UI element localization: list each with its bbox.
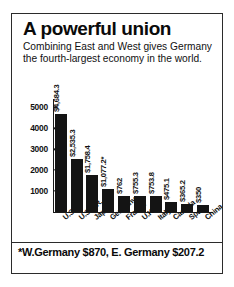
bar-group: $1,077.2*Germany [102, 99, 114, 212]
plot-area: 10002000300040005000$4,684.3U.S.$2,535.3… [53, 99, 211, 212]
y-axis-tick-label: 3000 [30, 144, 53, 154]
bar [150, 196, 162, 212]
bar-value-label: $762 [115, 178, 124, 194]
bar-group: $762France [118, 99, 130, 212]
bar-group: $365.2Spain [181, 99, 193, 212]
bar [55, 114, 67, 212]
bar-value-label: $350 [194, 187, 203, 203]
chart-subtitle: Combining East and West gives Germany th… [23, 41, 213, 64]
footnote-divider [12, 242, 222, 243]
bar-value-label: $1,077.2* [99, 157, 108, 187]
bar-group: $4,684.3U.S. [55, 99, 67, 212]
bar-value-label: $4,684.3 [52, 84, 61, 112]
chart-figure: A powerful union Combining East and West… [11, 13, 223, 274]
y-axis-tick-label: 2000 [30, 165, 53, 175]
footnote: *W.Germany $870, E. Germany $207.2 [18, 246, 218, 258]
bar-value-label: $753.8 [147, 173, 156, 195]
bar-group: $1,758.4Japan [86, 99, 98, 212]
bar-value-label: $2,535.3 [68, 129, 77, 157]
bar-value-label: $755.3 [131, 172, 140, 194]
bar [134, 196, 146, 212]
y-axis-tick-label: 4000 [30, 123, 53, 133]
bar-group: $2,535.3U.S.S.R. [71, 99, 83, 212]
bar-group: $753.8Italy [150, 99, 162, 212]
bar [71, 159, 83, 212]
bar-value-label: $1,758.4 [83, 146, 92, 174]
bar [86, 175, 98, 212]
bar-group: $350China [197, 99, 209, 212]
bar-value-label: $365.2 [178, 181, 187, 203]
y-axis-tick-label: 5000 [30, 102, 53, 112]
page-title: A powerful union [23, 19, 218, 39]
bar-value-label: $475.1 [162, 178, 171, 200]
bar-group: $475.1Canada [165, 99, 177, 212]
bar-group: $755.3U.K. [134, 99, 146, 212]
y-axis-tick-label: 1000 [30, 186, 53, 196]
bar [102, 189, 114, 212]
